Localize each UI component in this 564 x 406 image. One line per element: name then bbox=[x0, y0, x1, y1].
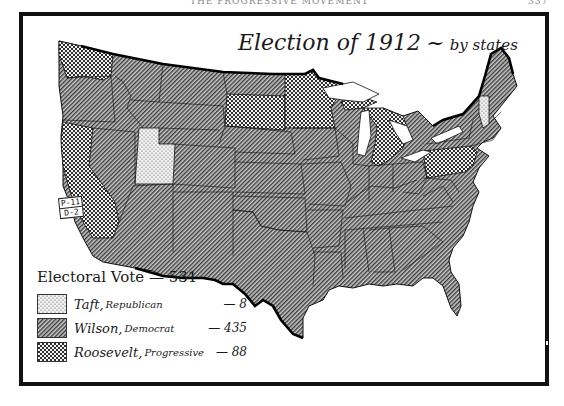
frame-notch bbox=[546, 341, 548, 345]
legend-row-roosevelt: Roosevelt, Progressive — 88 bbox=[37, 340, 267, 364]
legend-row-wilson: Wilson, Democrat — 435 bbox=[37, 316, 267, 340]
legend-party: Republican bbox=[106, 299, 163, 310]
map-subtitle: by states bbox=[450, 36, 518, 54]
legend-candidate: Wilson bbox=[74, 321, 118, 336]
running-head-title: THE PROGRESSIVE MOVEMENT bbox=[190, 0, 369, 6]
state-south-dakota bbox=[225, 94, 285, 130]
legend-votes: — 8 bbox=[224, 297, 247, 311]
legend: Electoral Vote — 531 Taft, Republican — … bbox=[37, 268, 267, 364]
running-head: THE PROGRESSIVE MOVEMENT 337 bbox=[0, 0, 564, 6]
checker-pattern-swatch-icon bbox=[37, 342, 67, 362]
page-number: 337 bbox=[528, 0, 548, 6]
legend-candidate: Roosevelt bbox=[74, 345, 138, 360]
california-democrat-votes: D-2 bbox=[60, 207, 83, 218]
dots-pattern-swatch-icon bbox=[37, 294, 67, 314]
map-frame: Election of 1912 ~ by states P-11 D-2 El… bbox=[19, 12, 549, 386]
legend-row-taft: Taft, Republican — 8 bbox=[37, 292, 267, 316]
legend-heading: Electoral Vote — 531 bbox=[37, 268, 267, 286]
legend-party: Progressive bbox=[144, 347, 204, 358]
diagonal-lines-swatch-icon bbox=[37, 318, 67, 338]
legend-candidate: Taft bbox=[74, 297, 99, 312]
legend-party: Democrat bbox=[124, 323, 174, 334]
map-title-main: Election of 1912 bbox=[238, 30, 421, 55]
map-title-separator: ~ bbox=[426, 30, 444, 55]
legend-votes: — 435 bbox=[208, 321, 247, 335]
california-split-label: P-11 D-2 bbox=[58, 196, 84, 219]
legend-votes: — 88 bbox=[216, 345, 247, 359]
map-title: Election of 1912 ~ by states bbox=[238, 30, 518, 55]
